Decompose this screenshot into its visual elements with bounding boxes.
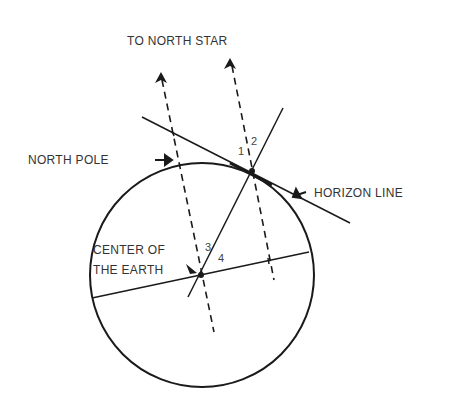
diagram-drawing — [0, 0, 454, 407]
north-star-label: TO NORTH STAR — [127, 34, 228, 48]
north-star-latitude-diagram: TO NORTH STAR NORTH POLE HORIZON LINE CE… — [0, 0, 454, 407]
tick-mark — [268, 258, 269, 264]
center-pointer-icon — [186, 264, 197, 274]
center-point — [198, 272, 204, 278]
horizon-line-label: HORIZON LINE — [314, 186, 403, 200]
tick-mark — [172, 131, 174, 136]
angle-label-1: 1 — [238, 145, 244, 157]
north-pole-pointer-icon — [155, 155, 172, 165]
angle-label-2: 2 — [251, 135, 257, 147]
sight-line-pole — [162, 80, 214, 332]
observer-point — [249, 168, 255, 174]
angle-label-3: 3 — [205, 241, 211, 253]
north-pole-label: NORTH POLE — [28, 153, 109, 167]
arrow-up-icon — [224, 58, 236, 69]
horizon-pointer-icon — [293, 189, 306, 198]
center-of-earth-label-line2: THE EARTH — [93, 263, 164, 277]
radius-line — [188, 108, 283, 297]
arrow-up-icon — [155, 72, 167, 83]
angle-label-4: 4 — [218, 252, 224, 264]
center-of-earth-label-line1: CENTER OF — [93, 243, 165, 257]
